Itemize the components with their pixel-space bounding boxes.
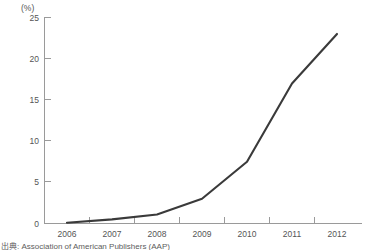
x-tick-label-2011: 2011 [283, 229, 302, 239]
chart-container: (%) 25 20 15 10 5 0 2006 [0, 0, 370, 250]
y-tick-label-5: 5 [34, 177, 39, 187]
y-axis [45, 17, 52, 224]
data-series-line [67, 34, 337, 223]
x-tick-label-2010: 2010 [238, 229, 257, 239]
y-tick-label-15: 15 [30, 95, 40, 105]
source-caption: 出典: Association of American Publishers (… [1, 242, 170, 250]
y-tick-label-0: 0 [34, 219, 39, 229]
x-tick-label-2007: 2007 [103, 229, 122, 239]
line-chart-plot: 25 20 15 10 5 0 2006 2007 20 [0, 0, 370, 250]
x-tick-label-2009: 2009 [193, 229, 212, 239]
y-tick-label-20: 20 [30, 54, 40, 64]
y-axis-tick-labels: 25 20 15 10 5 0 [30, 13, 40, 229]
y-tick-label-25: 25 [30, 13, 40, 23]
x-tick-label-2006: 2006 [58, 229, 77, 239]
x-axis-tick-labels: 2006 2007 2008 2009 2010 2011 2012 [58, 229, 347, 239]
y-tick-label-10: 10 [30, 136, 40, 146]
x-tick-label-2008: 2008 [148, 229, 167, 239]
x-tick-label-2012: 2012 [328, 229, 347, 239]
